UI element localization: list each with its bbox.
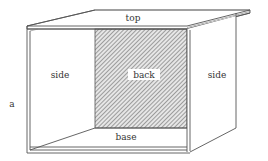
- label-back: back: [133, 70, 155, 80]
- label-base: base: [115, 132, 136, 142]
- label-side-left: side: [51, 70, 70, 80]
- box-diagram: top side back side base a: [0, 0, 268, 161]
- right-side-panel: [187, 13, 236, 152]
- label-marker-a: a: [9, 99, 15, 109]
- label-side-right: side: [208, 70, 227, 80]
- left-side-panel: [27, 29, 38, 153]
- base-board: [27, 128, 190, 153]
- label-top: top: [126, 13, 141, 23]
